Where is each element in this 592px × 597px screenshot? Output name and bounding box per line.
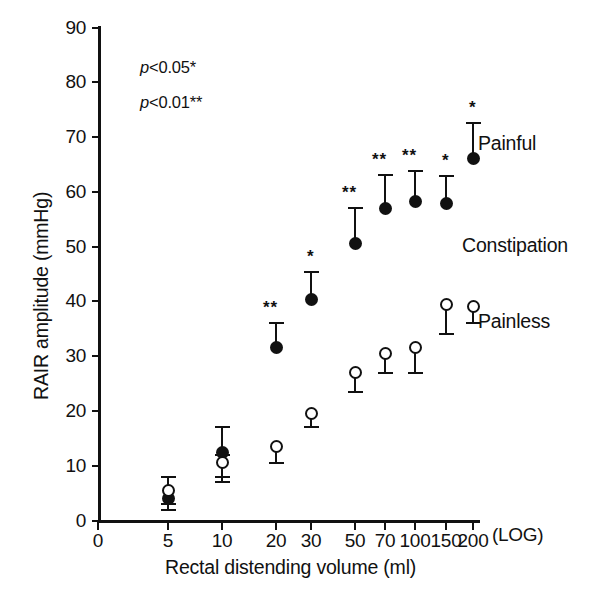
data-point-painless: [379, 347, 392, 360]
y-tick-label: 20: [36, 401, 86, 420]
y-tick-label: 80: [36, 72, 86, 91]
error-bar-cap: [161, 503, 176, 505]
x-tick: [414, 521, 416, 530]
x-tick-label: 0: [73, 531, 123, 550]
significance-marker: *: [307, 252, 315, 262]
x-tick: [472, 521, 474, 530]
error-bar-cap: [161, 476, 176, 478]
y-axis-title: RAIR amplitude (mmHg): [30, 192, 53, 400]
y-tick: [92, 300, 101, 302]
data-point-painful: [305, 293, 318, 306]
data-point-painful: [270, 341, 283, 354]
data-point-painful: [379, 202, 392, 215]
group-label-constipation: Constipation: [462, 234, 568, 257]
error-bar-cap: [304, 271, 319, 273]
error-bar-cap: [215, 481, 230, 483]
error-bar-cap: [439, 333, 454, 335]
significance-marker: **: [372, 155, 387, 165]
rair-amplitude-chart: 0102030405060708090 05102030507010015020…: [0, 0, 592, 597]
y-tick: [92, 81, 101, 83]
y-tick: [92, 246, 101, 248]
error-bar-cap: [378, 372, 393, 374]
significance-marker: **: [402, 151, 417, 161]
significance-marker: *: [442, 156, 450, 166]
significance-marker: **: [342, 188, 357, 198]
error-bar-cap: [408, 372, 423, 374]
data-point-painless: [305, 407, 318, 420]
x-tick: [97, 521, 99, 530]
data-point-painful: [440, 197, 453, 210]
x-tick: [384, 521, 386, 530]
x-tick: [445, 521, 447, 530]
y-tick-label: 90: [36, 18, 86, 37]
error-bar-cap: [269, 322, 284, 324]
y-tick: [92, 410, 101, 412]
significance-marker: *: [469, 103, 477, 113]
data-point-painful: [409, 195, 422, 208]
x-tick: [221, 521, 223, 530]
significance-marker: **: [263, 303, 278, 313]
data-point-painless: [349, 366, 362, 379]
error-bar-cap: [215, 454, 230, 456]
data-point-painless: [270, 440, 283, 453]
error-bar-cap: [269, 462, 284, 464]
y-axis-line: [98, 26, 101, 522]
series-label-painful: Painful: [478, 132, 536, 155]
y-tick-label: 70: [36, 127, 86, 146]
error-bar-cap: [161, 509, 176, 511]
error-bar-cap: [439, 175, 454, 177]
log-scale-note: (LOG): [492, 524, 543, 546]
x-tick: [354, 521, 356, 530]
data-point-painless: [216, 456, 229, 469]
x-tick: [275, 521, 277, 530]
y-tick: [92, 27, 101, 29]
data-point-painless: [162, 484, 175, 497]
p-value-note-001: p<0.01**: [140, 93, 202, 112]
x-tick-label: 200: [448, 531, 498, 550]
x-tick-label: 30: [286, 531, 336, 550]
data-point-painless: [409, 341, 422, 354]
x-axis-line: [98, 520, 480, 523]
error-bar-cap: [215, 426, 230, 428]
y-tick: [92, 136, 101, 138]
error-bar-cap: [378, 174, 393, 176]
data-point-painful: [349, 237, 362, 250]
x-tick-label: 10: [197, 531, 247, 550]
series-label-painless: Painless: [478, 310, 550, 333]
x-tick: [310, 521, 312, 530]
y-tick-label: 0: [36, 511, 86, 530]
x-tick: [167, 521, 169, 530]
error-bar-cap: [348, 391, 363, 393]
y-tick-label: 10: [36, 456, 86, 475]
y-tick: [92, 191, 101, 193]
y-tick: [92, 355, 101, 357]
p-value-note-005: p<0.05*: [140, 58, 196, 77]
x-axis-title: Rectal distending volume (ml): [165, 556, 416, 579]
x-tick-label: 5: [143, 531, 193, 550]
y-tick: [92, 465, 101, 467]
error-bar-cap: [466, 122, 481, 124]
error-bar-cap: [408, 170, 423, 172]
error-bar-cap: [348, 207, 363, 209]
data-point-painless: [440, 298, 453, 311]
error-bar-cap: [304, 426, 319, 428]
